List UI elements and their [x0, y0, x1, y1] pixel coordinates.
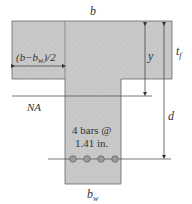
label-bw: bw [87, 187, 99, 203]
label-bars-size: 1.41 in. [75, 137, 109, 149]
label-b: b [90, 4, 96, 18]
rebar-icon [70, 156, 77, 163]
label-tf: tf [176, 44, 183, 60]
rebar-icon [112, 156, 119, 163]
rebar-icon [98, 156, 105, 163]
label-y: y [147, 49, 154, 63]
label-bars-count: 4 bars @ [72, 124, 111, 136]
rebar-icon [84, 156, 91, 163]
label-d: d [168, 109, 175, 123]
label-overhang: (b−bw)/2 [16, 51, 56, 65]
label-na: NA [26, 101, 41, 113]
tbeam-diagram: b (b−bw)/2 y tf NA d 4 bars @ 1.41 in. b… [0, 0, 192, 204]
